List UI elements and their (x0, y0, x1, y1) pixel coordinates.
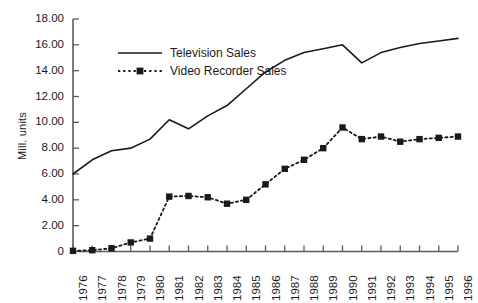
data-point-marker (108, 245, 114, 251)
series-line-video-recorder (73, 128, 458, 251)
data-point-marker (70, 248, 76, 254)
data-point-marker (359, 136, 365, 142)
data-point-marker (320, 145, 326, 151)
legend-marker-video-recorder (137, 68, 144, 75)
legend-label-television: Television Sales (170, 47, 256, 59)
legend-label-video-recorder: Video Recorder Sales (170, 65, 287, 77)
data-point-marker (166, 193, 172, 199)
data-point-marker (243, 197, 249, 203)
data-point-marker (436, 135, 442, 141)
data-point-marker (128, 239, 134, 245)
data-point-marker (185, 193, 191, 199)
data-point-marker (205, 194, 211, 200)
series-line-television (73, 38, 458, 174)
data-point-marker (339, 124, 345, 130)
data-point-marker (397, 139, 403, 145)
data-point-marker (224, 201, 230, 207)
data-point-marker (282, 166, 288, 172)
chart-container: Mill. units 18.0016.0014.0012.0010.008.0… (0, 0, 478, 303)
data-point-marker (89, 247, 95, 253)
data-point-marker (301, 157, 307, 163)
data-point-marker (378, 133, 384, 139)
data-point-marker (416, 136, 422, 142)
data-point-marker (455, 133, 461, 139)
data-point-marker (147, 235, 153, 241)
data-point-marker (262, 181, 268, 187)
